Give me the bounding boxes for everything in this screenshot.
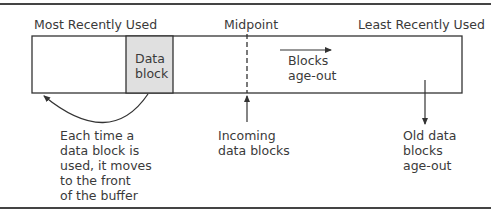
midpoint-label: Midpoint	[224, 17, 278, 32]
least-recently-used-label: Least Recently Used	[358, 17, 485, 32]
data-block-label: Data block	[135, 51, 168, 81]
most-recently-used-label: Most Recently Used	[34, 17, 157, 32]
each-time-label: Each time a data block is used, it moves…	[60, 128, 152, 203]
old-data-blocks-label: Old data blocks age-out	[403, 128, 456, 173]
move-to-front-arrow-icon	[44, 94, 148, 123]
incoming-data-blocks-label: Incoming data blocks	[218, 128, 290, 158]
blocks-age-out-label: Blocks age-out	[288, 53, 337, 83]
